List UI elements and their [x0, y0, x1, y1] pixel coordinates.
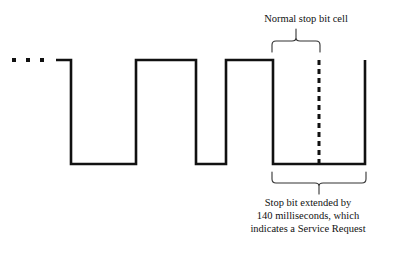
curly-brace-down-icon — [272, 172, 366, 194]
caption-line-2: 140 milliseconds, which — [228, 209, 388, 222]
extended-stop-bit-caption: Stop bit extended by 140 milliseconds, w… — [228, 196, 388, 235]
ellipsis-dots-icon — [12, 58, 44, 62]
normal-stop-bit-cell-label: Normal stop bit cell — [232, 12, 380, 25]
caption-line-3: indicates a Service Request — [228, 222, 388, 235]
caption-line-1: Stop bit extended by — [228, 196, 388, 209]
waveform-trace — [56, 60, 365, 164]
curly-brace-up-icon — [272, 29, 320, 52]
